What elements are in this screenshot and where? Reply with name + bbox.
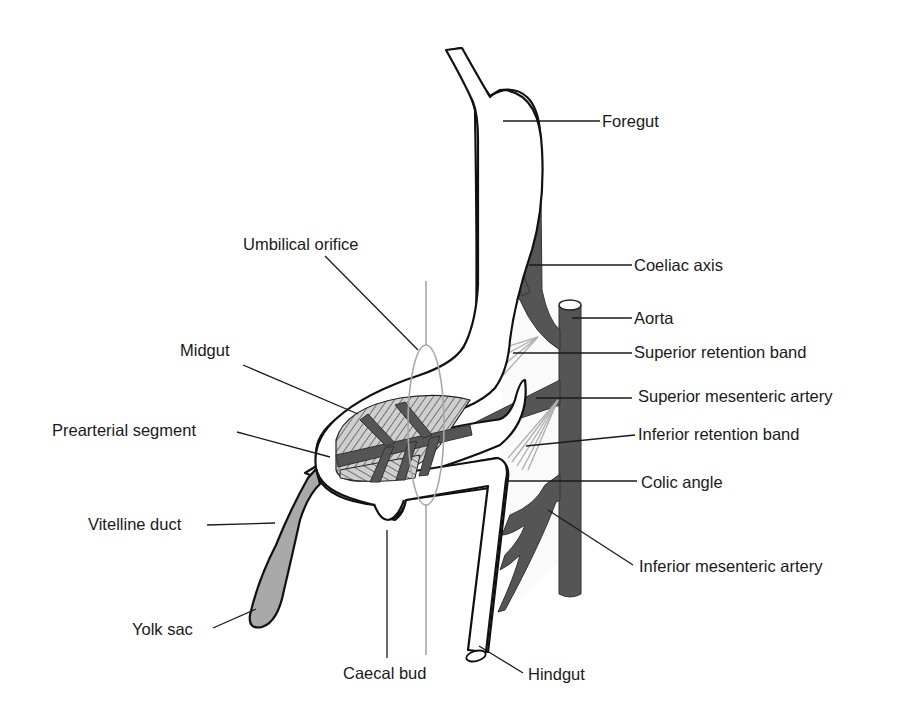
label-superior-retention-band: Superior retention band xyxy=(634,343,806,361)
label-coeliac-axis: Coeliac axis xyxy=(634,256,723,274)
label-caecal-bud: Caecal bud xyxy=(343,664,426,682)
aorta xyxy=(559,300,581,597)
label-superior-mesenteric-artery: Superior mesenteric artery xyxy=(638,387,833,405)
label-umbilical-orifice: Umbilical orifice xyxy=(243,235,359,253)
label-midgut: Midgut xyxy=(180,341,230,359)
label-vitelline-duct: Vitelline duct xyxy=(88,515,182,533)
label-aorta: Aorta xyxy=(634,309,674,327)
label-hindgut: Hindgut xyxy=(528,665,585,683)
label-yolk-sac: Yolk sac xyxy=(132,620,193,638)
label-inferior-retention-band: Inferior retention band xyxy=(638,425,799,443)
yolk-sac xyxy=(250,469,320,628)
label-colic-angle: Colic angle xyxy=(641,473,723,491)
label-prearterial-segment: Prearterial segment xyxy=(52,421,196,439)
label-inferior-mesenteric-artery: Inferior mesenteric artery xyxy=(639,557,823,575)
label-foregut: Foregut xyxy=(602,112,659,130)
midgut-development-diagram: Foregut Coeliac axis Aorta Umbilical ori… xyxy=(0,0,919,716)
